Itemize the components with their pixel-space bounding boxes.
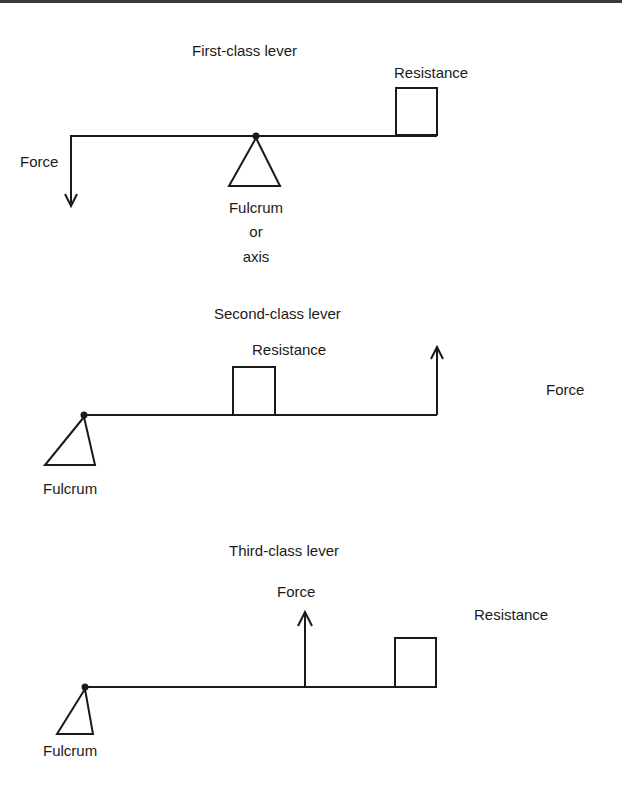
fulcrum-triangle-icon — [45, 417, 95, 465]
third-force-label: Force — [277, 583, 315, 601]
third-resistance-label: Resistance — [474, 606, 548, 624]
first-lever-title: First-class lever — [192, 42, 297, 60]
first-fulcrum-label: Fulcrum — [216, 199, 296, 217]
first-fulcrum-or-label: or — [216, 223, 296, 241]
resistance-box — [395, 638, 436, 687]
resistance-box — [396, 88, 437, 135]
third-lever-title: Third-class lever — [229, 542, 339, 560]
fulcrum-triangle-icon — [229, 138, 280, 186]
pivot-dot — [83, 685, 88, 690]
second-lever-title: Second-class lever — [214, 305, 341, 323]
second-class-lever — [45, 347, 443, 465]
pivot-dot — [254, 134, 259, 139]
second-resistance-label: Resistance — [252, 341, 326, 359]
third-class-lever — [57, 612, 436, 734]
first-force-label: Force — [20, 153, 58, 171]
fulcrum-triangle-icon — [57, 689, 93, 734]
lever-diagrams-svg — [0, 0, 622, 795]
first-class-lever — [65, 88, 437, 206]
first-resistance-label: Resistance — [394, 64, 468, 82]
first-fulcrum-axis-label: axis — [216, 248, 296, 266]
third-fulcrum-label: Fulcrum — [43, 742, 97, 760]
second-fulcrum-label: Fulcrum — [43, 480, 97, 498]
resistance-box — [233, 367, 275, 415]
pivot-dot — [82, 413, 87, 418]
second-force-label: Force — [546, 381, 584, 399]
